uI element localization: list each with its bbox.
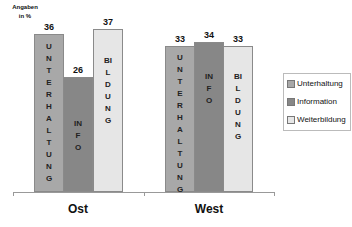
value-west-information: 34 xyxy=(194,30,224,40)
bar-text: UNTERHALTUNG xyxy=(35,41,63,185)
legend-label: Weiterbildung xyxy=(297,115,346,124)
x-tick xyxy=(144,192,145,196)
legend-label: Unterhaltung xyxy=(297,79,343,88)
legend-item-information: Information xyxy=(287,97,337,106)
bar-text: INFO xyxy=(195,71,223,107)
x-tick xyxy=(274,192,275,196)
swatch-icon xyxy=(287,98,295,106)
category-west: West xyxy=(169,202,249,216)
legend: Unterhaltung Information Weiterbildung xyxy=(283,73,351,131)
bar-text: BILDUNG xyxy=(94,55,122,127)
x-tick xyxy=(13,192,14,196)
swatch-icon xyxy=(287,116,295,124)
bar-west-information: INFO xyxy=(194,42,224,192)
value-west-weiterbildung: 33 xyxy=(223,34,253,44)
legend-item-weiterbildung: Weiterbildung xyxy=(287,115,346,124)
bar-text: BILDUNG xyxy=(224,71,252,143)
legend-label: Information xyxy=(297,97,337,106)
bar-ost-information: INFO xyxy=(63,77,93,192)
value-ost-information: 26 xyxy=(63,65,93,75)
category-ost: Ost xyxy=(38,202,118,216)
bar-text: UNTERHALTUNG xyxy=(166,52,194,196)
y-axis-label: Angaben in % xyxy=(8,3,42,21)
y-label-line2: in % xyxy=(8,12,42,21)
legend-item-unterhaltung: Unterhaltung xyxy=(287,79,343,88)
bar-west-unterhaltung: UNTERHALTUNG xyxy=(165,46,195,192)
value-ost-weiterbildung: 37 xyxy=(93,17,123,27)
value-west-unterhaltung: 33 xyxy=(165,34,195,44)
y-label-line1: Angaben xyxy=(8,3,42,12)
value-ost-unterhaltung: 36 xyxy=(34,22,64,32)
bar-ost-unterhaltung: UNTERHALTUNG xyxy=(34,34,64,192)
bar-west-weiterbildung: BILDUNG xyxy=(223,46,253,192)
bar-ost-weiterbildung: BILDUNG xyxy=(93,29,123,192)
bar-text: INFO xyxy=(64,118,92,154)
swatch-icon xyxy=(287,80,295,88)
